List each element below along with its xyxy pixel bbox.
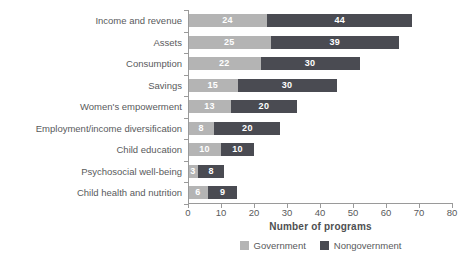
x-axis-tick-label: 50 (348, 207, 359, 218)
category-label: Assets (153, 36, 182, 49)
bar-value-label: 44 (334, 14, 345, 27)
bar-value-label: 20 (242, 122, 253, 135)
category-label: Consumption (126, 57, 182, 70)
bar-value-label: 15 (207, 79, 218, 92)
bar-value-label: 22 (219, 57, 230, 70)
bar-value-label: 20 (259, 100, 270, 113)
bar-value-label: 24 (222, 14, 233, 27)
x-axis-tick-label: 40 (315, 207, 326, 218)
bar-segment-nongovernment: 39 (271, 36, 400, 49)
bar-segment-government: 3 (188, 165, 198, 178)
category-label: Child education (117, 143, 183, 156)
bar-segment-government: 24 (188, 14, 267, 27)
legend-label-nongovernment: Nongovernment (334, 240, 402, 251)
bar-segment-nongovernment: 8 (198, 165, 224, 178)
category-label: Employment/income diversification (36, 122, 182, 135)
category-label: Child health and nutrition (77, 186, 182, 199)
bar-value-label: 3 (190, 165, 195, 178)
bar-value-label: 8 (199, 122, 204, 135)
legend: Government Nongovernment (188, 240, 453, 251)
stacked-bar-chart-figure: Income and revenue2444Assets2539Consumpt… (0, 0, 474, 263)
x-axis-tick-label: 0 (185, 207, 190, 218)
bar-segment-nongovernment: 44 (267, 14, 412, 27)
legend-swatch-nongovernment (320, 241, 329, 250)
bar-value-label: 10 (199, 143, 210, 156)
category-label: Savings (148, 79, 182, 92)
x-axis-tick-label: 70 (414, 207, 425, 218)
bar-segment-government: 10 (188, 143, 221, 156)
bar-segment-government: 25 (188, 36, 271, 49)
bar-value-label: 30 (282, 79, 293, 92)
x-axis-tick-label: 80 (447, 207, 458, 218)
bar-segment-nongovernment: 20 (214, 122, 280, 135)
bar-value-label: 9 (220, 186, 225, 199)
bar-value-label: 6 (195, 186, 200, 199)
bar-value-label: 13 (204, 100, 215, 113)
x-axis-tick-label: 20 (249, 207, 260, 218)
bar-value-label: 30 (305, 57, 316, 70)
bar-segment-government: 8 (188, 122, 214, 135)
category-label: Women's empowerment (80, 100, 182, 113)
bar-segment-government: 22 (188, 57, 261, 70)
bar-value-label: 25 (224, 36, 235, 49)
bar-segment-government: 6 (188, 186, 208, 199)
legend-label-government: Government (254, 240, 306, 251)
x-axis-tick-label: 30 (282, 207, 293, 218)
bar-segment-nongovernment: 30 (238, 79, 337, 92)
bar-segment-nongovernment: 20 (231, 100, 297, 113)
category-label: Income and revenue (95, 14, 182, 27)
legend-entry-nongovernment: Nongovernment (320, 240, 402, 251)
bar-segment-nongovernment: 10 (221, 143, 254, 156)
bar-value-label: 10 (232, 143, 243, 156)
legend-swatch-government (240, 241, 249, 250)
bar-segment-government: 13 (188, 100, 231, 113)
legend-entry-government: Government (240, 240, 306, 251)
bar-value-label: 8 (208, 165, 213, 178)
x-axis-tick-label: 60 (381, 207, 392, 218)
x-axis-line (188, 203, 453, 204)
x-axis-tick-label: 10 (216, 207, 227, 218)
y-axis-line (188, 10, 189, 204)
bar-segment-nongovernment: 9 (208, 186, 238, 199)
bar-segment-government: 15 (188, 79, 238, 92)
x-axis-title: Number of programs (188, 221, 453, 232)
bar-segment-nongovernment: 30 (261, 57, 360, 70)
category-label: Psychosocial well-being (81, 165, 182, 178)
bar-value-label: 39 (330, 36, 341, 49)
